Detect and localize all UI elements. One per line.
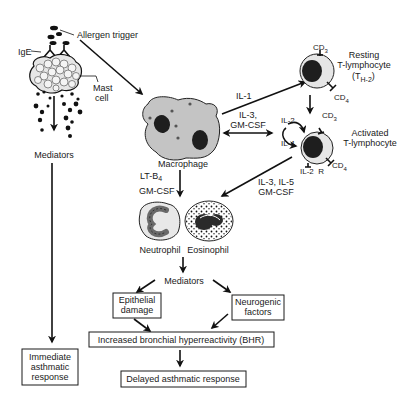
ige-label: IgE bbox=[18, 47, 32, 57]
arrow-epithelial-to-bhr bbox=[134, 319, 150, 331]
arrow-mediators-to-epithelial bbox=[137, 280, 155, 292]
th2-label: (TH-2) bbox=[352, 71, 375, 83]
mast-cell-label-1: Mast bbox=[93, 83, 113, 93]
lt-b4-label: LT-B4 bbox=[140, 171, 162, 182]
mast-cell-icon bbox=[30, 55, 98, 93]
eosinophil-label: Eosinophil bbox=[187, 245, 229, 255]
mediator-granules bbox=[34, 90, 83, 138]
eosinophil-icon bbox=[185, 201, 233, 241]
il2-label: IL-2 bbox=[281, 116, 295, 125]
resting-label: Resting bbox=[349, 50, 380, 60]
immediate-response-line-2: asthmatic bbox=[31, 362, 70, 372]
resting-t-lymphocyte-label: T-lymphocyte bbox=[337, 60, 391, 70]
il3-label: IL-3, bbox=[239, 110, 257, 120]
gmcsf-right-label: GM-CSF bbox=[258, 187, 294, 197]
il3-il5-label: IL-3, IL-5 bbox=[258, 177, 294, 187]
bhr-label: Increased bronchial hyperreactivity (BHR… bbox=[98, 335, 265, 345]
arrow-neurogenic-to-bhr bbox=[212, 314, 228, 328]
allergen-particles bbox=[48, 26, 75, 40]
cd4-activated-label: CD4 bbox=[332, 161, 348, 172]
il1-label: IL-1 bbox=[236, 91, 252, 101]
activated-t-lymphocyte-label: T-lymphocyte bbox=[343, 138, 397, 148]
neurogenic-label: Neurogenic bbox=[235, 297, 282, 307]
il4-label: IL-4 bbox=[281, 139, 295, 148]
gmcsf-left-label: GM-CSF bbox=[139, 186, 175, 196]
resting-t-lymphocyte-icon bbox=[300, 50, 336, 91]
immediate-response-line-3: response bbox=[31, 372, 68, 382]
gmcsf-label: GM-CSF bbox=[230, 120, 266, 130]
mediators-center-label: Mediators bbox=[164, 276, 204, 286]
macrophage-icon bbox=[143, 97, 220, 160]
macrophage-label: Macrophage bbox=[158, 159, 208, 169]
il2-receptor-label: IL-2 R bbox=[300, 167, 324, 176]
damage-label: damage bbox=[121, 305, 154, 315]
cd3-activated-label: CD3 bbox=[322, 111, 338, 122]
neutrophil-label: Neutrophil bbox=[139, 245, 180, 255]
mediators-left-label: Mediators bbox=[34, 150, 74, 160]
delayed-response-label: Delayed asthmatic response bbox=[126, 374, 240, 384]
immediate-response-line-1: Immediate bbox=[29, 352, 71, 362]
mast-cell-label-2: cell bbox=[95, 93, 109, 103]
activated-label: Activated bbox=[351, 128, 388, 138]
allergen-trigger-label: Allergen trigger bbox=[77, 30, 138, 40]
cd4-resting-label: CD4 bbox=[334, 93, 350, 104]
neutrophil-icon bbox=[139, 202, 180, 240]
factors-label: factors bbox=[244, 307, 272, 317]
arrow-il1 bbox=[222, 82, 305, 114]
asthma-pathway-diagram: Allergen trigger IgE Mast cell Mediators bbox=[0, 0, 412, 410]
arrow-mediators-to-neurogenic bbox=[213, 280, 230, 292]
epithelial-label: Epithelial bbox=[119, 295, 156, 305]
